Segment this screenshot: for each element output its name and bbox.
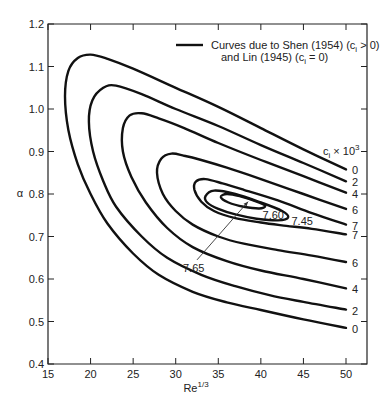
- legend-line-2: and Lin (1945) (ci = 0): [221, 51, 328, 66]
- y-tick-label: 0.6: [29, 273, 44, 285]
- y-tick-label: 0.8: [29, 188, 44, 200]
- y-tick-label: 0.9: [29, 146, 44, 158]
- y-tick-label: 1.2: [29, 18, 44, 30]
- curve-ci-7-60: [221, 194, 265, 209]
- y-axis-title: α: [17, 187, 24, 199]
- legend: Curves due to Shen (1954) (ci > 0)and Li…: [176, 39, 379, 66]
- stability-chart: 15202530354045500.40.50.60.70.80.91.01.1…: [0, 0, 385, 404]
- x-tick-label: 25: [127, 368, 139, 380]
- curve-label-lower: 7: [352, 229, 358, 241]
- x-tick-label: 35: [212, 368, 224, 380]
- curve-label-upper: 2: [352, 176, 358, 188]
- x-tick-label: 30: [170, 368, 182, 380]
- curve-label-upper: 4: [352, 188, 358, 200]
- x-tick-label: 20: [84, 368, 96, 380]
- curve-label-upper: 6: [352, 204, 358, 216]
- y-tick-label: 1.1: [29, 61, 44, 73]
- curve-label-lower: 2: [352, 305, 358, 317]
- curve-label-lower: 4: [352, 283, 358, 295]
- y-tick-label: 0.7: [29, 231, 44, 243]
- curve-label-lower: 0: [352, 323, 358, 335]
- x-tick-label: 45: [297, 368, 309, 380]
- curves: [65, 55, 346, 328]
- curve-ci-4: [122, 113, 346, 288]
- x-tick-label: 50: [340, 368, 352, 380]
- y-tick-label: 0.4: [29, 358, 44, 370]
- annotation-label-7-65: 7.65: [183, 262, 204, 274]
- axes: 15202530354045500.40.50.60.70.80.91.01.1…: [17, 18, 367, 394]
- curve-label-7-45: 7.45: [292, 215, 313, 227]
- curve-label-upper: 0: [352, 164, 358, 176]
- y-tick-label: 1.0: [29, 103, 44, 115]
- x-tick-label: 40: [255, 368, 267, 380]
- curve-label-7-60: 7.60: [263, 209, 284, 221]
- curve-label-lower: 6: [352, 257, 358, 269]
- y-tick-label: 0.5: [29, 316, 44, 328]
- labels: 00224466777.457.607.65ci × 103: [183, 143, 360, 335]
- curve-group-label: ci × 103: [323, 143, 360, 160]
- x-axis-title: Re1/3: [183, 380, 209, 394]
